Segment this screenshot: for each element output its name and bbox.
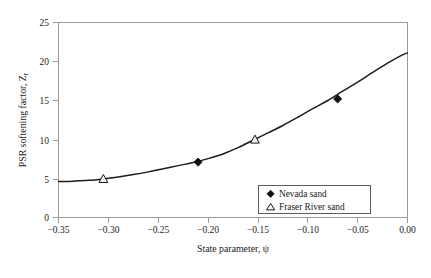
y-tick-label-0: 0 xyxy=(44,213,49,223)
y-tick-label-10: 10 xyxy=(40,136,50,146)
x-tick-label-3: −0.20 xyxy=(197,225,219,235)
x-tick-label-7: 0.00 xyxy=(399,225,416,235)
legend-label-fraser-river-sand: Fraser River sand xyxy=(279,202,345,212)
y-axis-title: PSR softening factor, Zr xyxy=(17,72,30,167)
x-tick-label-1: −0.30 xyxy=(97,225,119,235)
psr-softening-factor-chart: 25 20 15 10 5 0 −0.35 −0.30 −0.25 −0.20 … xyxy=(0,0,431,278)
x-axis-title: State parameter, ψ xyxy=(197,243,270,254)
trend-curve xyxy=(59,53,408,182)
chart-figure: 25 20 15 10 5 0 −0.35 −0.30 −0.25 −0.20 … xyxy=(0,0,431,278)
x-tick-label-5: −0.10 xyxy=(297,225,319,235)
x-tick-label-6: −0.05 xyxy=(347,225,369,235)
y-axis-ticks: 25 20 15 10 5 0 xyxy=(40,18,59,223)
y-tick-label-5: 5 xyxy=(44,175,49,185)
data-point-nevada-sand-0 xyxy=(194,158,202,166)
legend-label-nevada-sand: Nevada sand xyxy=(279,189,327,199)
legend: Nevada sand Fraser River sand xyxy=(259,186,371,214)
y-tick-label-20: 20 xyxy=(40,57,50,67)
y-tick-label-25: 25 xyxy=(40,18,50,28)
x-tick-label-0: −0.35 xyxy=(48,225,70,235)
x-tick-label-4: −0.15 xyxy=(247,225,269,235)
x-axis-ticks: −0.35 −0.30 −0.25 −0.20 −0.15 −0.10 −0.0… xyxy=(48,218,417,235)
y-tick-label-15: 15 xyxy=(40,96,50,106)
data-point-fraser-river-sand-1 xyxy=(251,135,260,143)
x-tick-label-2: −0.25 xyxy=(147,225,169,235)
y-axis-title-group: PSR softening factor, Zr xyxy=(17,72,30,167)
data-markers-layer xyxy=(99,95,342,183)
